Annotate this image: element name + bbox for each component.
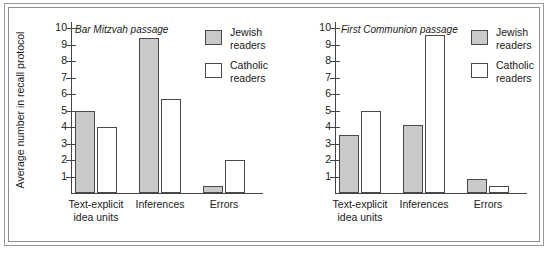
bar-catholic	[489, 186, 509, 193]
y-tick-mark	[330, 111, 340, 112]
x-group-label-line1: Text-explicit	[62, 198, 130, 211]
y-tick-label: 6	[311, 87, 331, 100]
y-tick-label: 8	[47, 54, 67, 67]
x-group-label: Text-explicitidea units	[62, 198, 130, 223]
x-group-label: Errors	[190, 198, 258, 211]
legend-label-line2: readers	[496, 39, 532, 52]
y-tick-mark	[66, 45, 76, 46]
y-tick-mark	[66, 28, 76, 29]
chart-panel-bar-mitzvah: Average number in recall protocol Bar Mi…	[9, 8, 281, 241]
y-tick-label: 3	[311, 137, 331, 150]
y-tick-label: 1	[311, 170, 331, 183]
x-group-label: Text-explicitidea units	[326, 198, 394, 223]
y-tick-mark	[330, 28, 340, 29]
y-tick-label: 7	[47, 71, 67, 84]
y-tick-mark	[330, 61, 340, 62]
x-group-label: Inferences	[390, 198, 458, 211]
legend-label-line1: Jewish	[230, 26, 266, 39]
y-tick-label: 10	[311, 21, 331, 34]
y-tick-label: 7	[311, 71, 331, 84]
y-axis-line-right	[335, 22, 336, 194]
legend-label: Catholicreaders	[230, 59, 268, 85]
legend-swatch-catholic	[205, 63, 222, 78]
legend-label-line2: readers	[496, 72, 534, 85]
bar-jewish	[339, 135, 359, 193]
y-tick-label: 9	[47, 38, 67, 51]
y-tick-label: 3	[47, 137, 67, 150]
legend-label-line1: Jewish	[496, 26, 532, 39]
bar-jewish	[403, 125, 423, 193]
legend-swatch-jewish	[205, 30, 222, 45]
x-group-label: Errors	[454, 198, 522, 211]
y-tick-mark	[330, 45, 340, 46]
bar-catholic	[361, 111, 381, 194]
x-group-label-line1: Inferences	[390, 198, 458, 211]
y-tick-label: 5	[311, 104, 331, 117]
legend-swatch-jewish	[471, 30, 488, 45]
x-group-label-line1: Errors	[190, 198, 258, 211]
y-tick-label: 9	[311, 38, 331, 51]
x-group-label: Inferences	[126, 198, 194, 211]
y-tick-mark	[330, 94, 340, 95]
bar-jewish	[75, 111, 95, 194]
y-tick-mark	[66, 61, 76, 62]
legend-label: Jewishreaders	[496, 26, 532, 52]
y-tick-mark	[330, 78, 340, 79]
x-group-label-line2: idea units	[326, 211, 394, 224]
y-tick-label: 6	[47, 87, 67, 100]
legend-label-line2: readers	[230, 72, 268, 85]
x-axis-line-right	[335, 193, 527, 194]
bar-catholic	[225, 160, 245, 193]
y-tick-label: 2	[47, 153, 67, 166]
legend-swatch-catholic	[471, 63, 488, 78]
y-tick-label: 2	[311, 153, 331, 166]
x-group-label-line1: Errors	[454, 198, 522, 211]
y-tick-label: 1	[47, 170, 67, 183]
y-tick-label: 5	[47, 104, 67, 117]
y-tick-label: 10	[47, 21, 67, 34]
y-tick-label: 8	[311, 54, 331, 67]
y-tick-mark	[330, 127, 340, 128]
bar-catholic	[425, 35, 445, 193]
figure-inner-frame: Average number in recall protocol Bar Mi…	[8, 7, 540, 242]
bar-jewish	[467, 179, 487, 193]
legend-label-line2: readers	[230, 39, 266, 52]
x-group-label-line1: Inferences	[126, 198, 194, 211]
bar-jewish	[139, 38, 159, 193]
y-axis-title: Average number in recall protocol	[13, 22, 27, 198]
chart-panel-first-communion: First Communion passage 10987654321 Text…	[281, 8, 543, 241]
legend-label-line1: Catholic	[230, 59, 268, 72]
bar-catholic	[97, 127, 117, 193]
y-tick-label: 4	[311, 120, 331, 133]
legend-label: Catholicreaders	[496, 59, 534, 85]
y-tick-mark	[66, 78, 76, 79]
bar-catholic	[161, 99, 181, 193]
legend-label: Jewishreaders	[230, 26, 266, 52]
x-group-label-line1: Text-explicit	[326, 198, 394, 211]
y-tick-label: 4	[47, 120, 67, 133]
x-group-label-line2: idea units	[62, 211, 130, 224]
bar-jewish	[203, 186, 223, 193]
y-tick-mark	[66, 94, 76, 95]
y-axis-line-left	[71, 22, 72, 194]
x-axis-line-left	[71, 193, 263, 194]
legend-label-line1: Catholic	[496, 59, 534, 72]
figure-outer-frame: Average number in recall protocol Bar Mi…	[4, 3, 544, 246]
